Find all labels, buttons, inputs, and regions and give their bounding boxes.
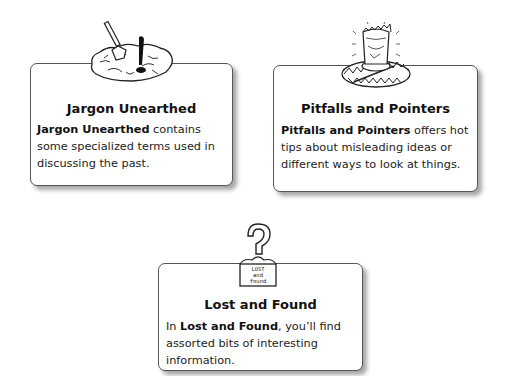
- card-body: In Lost and Found, you’ll find assorted …: [166, 318, 362, 369]
- card-title: Jargon Unearthed: [31, 101, 232, 116]
- card-body-prefix: In: [166, 320, 180, 333]
- card-title: Pitfalls and Pointers: [274, 101, 477, 116]
- lost-and-found-box-icon: LOST and found: [230, 222, 286, 288]
- card-body-bold: Lost and Found: [180, 320, 278, 333]
- dig-site-icon: [86, 20, 178, 90]
- card-body: Jargon Unearthed contains some specializ…: [37, 121, 233, 172]
- card-body-bold: Pitfalls and Pointers: [281, 124, 411, 137]
- card-body-bold: Jargon Unearthed: [37, 123, 149, 136]
- box-label-line-3: found: [250, 278, 267, 284]
- card-title: Lost and Found: [159, 297, 362, 312]
- bear-trap-icon: [338, 22, 414, 92]
- card-body: Pitfalls and Pointers offers hot tips ab…: [281, 122, 477, 173]
